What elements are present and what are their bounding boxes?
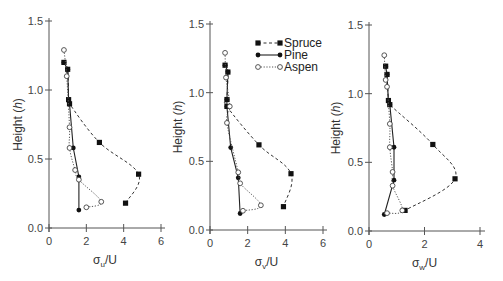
aspen-marker [84, 205, 89, 210]
aspen-marker [390, 170, 395, 175]
legend-aspen-marker [278, 65, 283, 70]
figure-three-panel-turbulence-profiles: 02460.00.51.01.5σu/UHeight (h) 02460.00.… [0, 0, 503, 281]
legend-spruce-marker [277, 40, 282, 45]
x-axis-label: σu/U [93, 253, 117, 269]
y-axis-label: Height (h) [329, 102, 343, 155]
y-tick-label: 1.5 [348, 19, 363, 31]
spruce-line [224, 65, 292, 207]
x-tick-label: 0 [207, 237, 213, 249]
legend-spruce-marker [255, 40, 260, 45]
legend-aspen-marker [256, 65, 261, 70]
panel-sigma-w: 0240.00.51.01.5σw/UHeight (h) [329, 19, 485, 272]
aspen-marker [236, 170, 241, 175]
y-tick-label: 0.0 [348, 225, 363, 237]
aspen-marker [225, 120, 230, 125]
aspen-marker [76, 177, 81, 182]
aspen-marker [385, 84, 390, 89]
y-tick-label: 1.0 [189, 87, 204, 99]
pine-marker [225, 70, 230, 75]
x-tick-label: 6 [158, 235, 164, 247]
series-spruce [383, 64, 458, 213]
y-tick-label: 0.5 [28, 153, 43, 165]
x-tick-label: 0 [46, 235, 52, 247]
aspen-marker [238, 181, 243, 186]
aspen-marker [390, 183, 395, 188]
aspen-marker [67, 146, 72, 151]
aspen-marker [258, 203, 263, 208]
spruce-marker [97, 140, 102, 145]
legend-pine-marker [256, 53, 261, 58]
series-aspen [382, 53, 405, 216]
x-tick-label: 2 [421, 238, 427, 250]
spruce-line [386, 66, 456, 210]
spruce-line [64, 62, 140, 203]
spruce-marker [256, 142, 261, 147]
y-tick-label: 0.0 [189, 224, 204, 236]
aspen-marker [62, 48, 67, 53]
y-axis-label: Height (h) [11, 98, 25, 151]
chart-canvas: 02460.00.51.01.5σu/UHeight (h) 02460.00.… [0, 0, 503, 281]
x-tick-label: 0 [366, 238, 372, 250]
series-spruce [222, 63, 293, 210]
aspen-marker [67, 125, 72, 130]
aspen-marker [383, 78, 388, 83]
spruce-marker [123, 201, 128, 206]
series-spruce [61, 60, 141, 206]
y-tick-label: 1.5 [189, 18, 204, 30]
x-axis-label: σv/U [255, 255, 278, 271]
aspen-marker [400, 208, 405, 213]
aspen-marker [227, 104, 232, 109]
x-tick-label: 2 [83, 235, 89, 247]
panel-sigma-u: 02460.00.51.01.5σu/UHeight (h) [11, 15, 165, 269]
aspen-marker [64, 74, 69, 79]
aspen-marker [224, 75, 229, 80]
legend: SprucePineAspen [255, 36, 322, 74]
spruce-marker [430, 142, 435, 147]
y-tick-label: 1.0 [348, 88, 363, 100]
spruce-marker [452, 176, 457, 181]
x-tick-label: 2 [245, 237, 251, 249]
legend-item-aspen: Aspen [256, 60, 318, 74]
legend-pine-marker [278, 53, 283, 58]
y-tick-label: 0.5 [189, 155, 204, 167]
series-pine [223, 63, 243, 216]
x-tick-label: 6 [320, 237, 326, 249]
spruce-marker [281, 204, 286, 209]
pine-marker [383, 64, 388, 69]
x-tick-label: 4 [121, 235, 127, 247]
y-tick-label: 1.0 [28, 84, 43, 96]
aspen-marker [387, 145, 392, 150]
y-axis-label: Height (h) [171, 101, 185, 154]
pine-line [64, 62, 79, 210]
aspen-marker [387, 121, 392, 126]
y-tick-label: 0.0 [28, 222, 43, 234]
aspen-marker [385, 211, 390, 216]
aspen-marker [241, 208, 246, 213]
pine-marker [67, 101, 72, 106]
aspen-marker [99, 199, 104, 204]
spruce-marker [136, 172, 141, 177]
x-tick-label: 4 [282, 237, 288, 249]
aspen-marker [382, 53, 387, 58]
y-tick-label: 1.5 [28, 15, 43, 27]
legend-label: Aspen [284, 60, 318, 74]
y-tick-label: 0.5 [348, 156, 363, 168]
pine-marker [76, 208, 81, 213]
aspen-marker [223, 50, 228, 55]
series-pine [62, 60, 82, 212]
aspen-line [225, 53, 261, 211]
spruce-marker [288, 171, 293, 176]
x-tick-label: 4 [477, 238, 483, 250]
aspen-marker [73, 168, 78, 173]
x-axis-label: σw/U [412, 256, 437, 272]
